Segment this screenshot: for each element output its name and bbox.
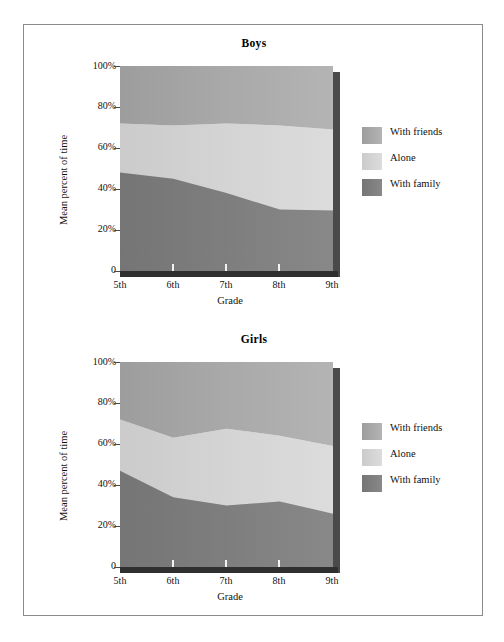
area-chart-svg-girls bbox=[120, 362, 333, 567]
y-tick-label-60-girls: 60% bbox=[72, 437, 116, 448]
plot-area-boys bbox=[120, 66, 338, 271]
legend-label-with-friends: With friends bbox=[390, 126, 442, 137]
legend-label-alone: Alone bbox=[390, 448, 416, 459]
chart-title-boys: Boys bbox=[24, 37, 484, 49]
x-tick-label-9th-boys: 9th bbox=[312, 279, 352, 290]
x-tick-label-5th-girls: 5th bbox=[100, 575, 140, 586]
legend-label-with-family: With family bbox=[390, 474, 441, 485]
x-tickmark-7th-girls bbox=[225, 560, 227, 567]
legend-swatch-with-family-icon bbox=[362, 179, 382, 196]
chart-boys: Boys Mean percent of time 100% 80% 60% 4… bbox=[24, 25, 484, 321]
x-axis-baseline-boys bbox=[120, 271, 338, 277]
legend-swatch-with-family-icon bbox=[362, 475, 382, 492]
y-axis-label-girls: Mean percent of time bbox=[58, 431, 69, 521]
legend-swatch-with-friends-icon bbox=[362, 423, 382, 440]
plot-shadow-right-girls bbox=[333, 368, 340, 573]
x-axis-label-boys: Grade bbox=[130, 295, 330, 306]
x-tick-label-6th-girls: 6th bbox=[153, 575, 193, 586]
y-tick-label-40-girls: 40% bbox=[72, 478, 116, 489]
y-tick-label-100: 100% bbox=[72, 60, 116, 71]
chart-title-girls: Girls bbox=[24, 333, 484, 345]
plot-area-girls bbox=[120, 362, 338, 567]
y-tick-label-80: 80% bbox=[72, 100, 116, 111]
chart-girls: Girls Mean percent of time 100% 80% 60% … bbox=[24, 321, 484, 617]
y-tick-label-100-girls: 100% bbox=[72, 356, 116, 367]
legend-swatch-with-friends-icon bbox=[362, 127, 382, 144]
plot-canvas-boys bbox=[120, 66, 333, 271]
x-tick-label-9th-girls: 9th bbox=[312, 575, 352, 586]
plot-canvas-girls bbox=[120, 362, 333, 567]
y-tick-label-0-girls: 0 bbox=[72, 560, 116, 571]
legend-swatch-alone-icon bbox=[362, 153, 382, 170]
x-tickmark-7th-boys bbox=[225, 264, 227, 271]
y-tick-label-80-girls: 80% bbox=[72, 396, 116, 407]
x-tick-label-8th-girls: 8th bbox=[259, 575, 299, 586]
x-tick-label-6th-boys: 6th bbox=[153, 279, 193, 290]
y-tick-label-40: 40% bbox=[72, 182, 116, 193]
legend-label-with-family: With family bbox=[390, 178, 441, 189]
y-tick-label-20: 20% bbox=[72, 223, 116, 234]
x-tickmark-6th-girls bbox=[172, 560, 174, 567]
plot-shadow-right-boys bbox=[333, 72, 340, 277]
legend-swatch-alone-icon bbox=[362, 449, 382, 466]
x-tick-label-7th-girls: 7th bbox=[206, 575, 246, 586]
legend-label-with-friends: With friends bbox=[390, 422, 442, 433]
figure-border: Boys Mean percent of time 100% 80% 60% 4… bbox=[23, 24, 483, 616]
band-with-friends-boys bbox=[120, 66, 333, 130]
area-chart-svg-boys bbox=[120, 66, 333, 271]
x-tick-label-8th-boys: 8th bbox=[259, 279, 299, 290]
y-tick-label-60: 60% bbox=[72, 141, 116, 152]
y-tick-label-0: 0 bbox=[72, 264, 116, 275]
x-tickmark-8th-girls bbox=[278, 560, 280, 567]
y-axis-label-boys: Mean percent of time bbox=[58, 135, 69, 225]
legend-label-alone: Alone bbox=[390, 152, 416, 163]
x-tick-label-7th-boys: 7th bbox=[206, 279, 246, 290]
y-tick-label-20-girls: 20% bbox=[72, 519, 116, 530]
x-axis-baseline-girls bbox=[120, 567, 338, 573]
x-tickmark-8th-boys bbox=[278, 264, 280, 271]
x-tick-label-5th-boys: 5th bbox=[100, 279, 140, 290]
x-tickmark-6th-boys bbox=[172, 264, 174, 271]
x-axis-label-girls: Grade bbox=[130, 591, 330, 602]
